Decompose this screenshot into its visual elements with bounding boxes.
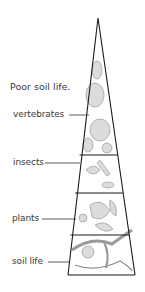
label-vertebrates: vertebrates — [13, 109, 64, 119]
diagram-title: Poor soil life. — [10, 81, 71, 92]
label-soil-life: soil life — [12, 256, 43, 266]
leader-lines — [42, 115, 89, 262]
soil-life-pyramid — [0, 0, 145, 292]
label-plants: plants — [12, 213, 39, 223]
label-insects: insects — [13, 157, 44, 167]
